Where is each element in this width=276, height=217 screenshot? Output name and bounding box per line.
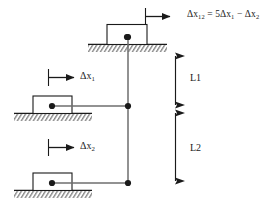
bottom-block-displacement-label: Δx2 [80,140,95,152]
dimension-L1-label: L1 [190,72,201,83]
diagram-root: Δx12 = 5Δx1 − Δx2 Δx1 Δx2 L1 L2 [0,0,276,217]
middle-ground [14,114,92,122]
equation-label: Δx12 = 5Δx1 − Δx2 [187,9,259,20]
middle-block-displacement-arrow [49,69,75,86]
top-block-displacement-arrow [146,8,171,25]
equation-term1-subscript: 1 [231,13,234,20]
top-block-pin [124,34,130,40]
bottom-block-displacement-arrow [49,139,75,156]
diagram-canvas [0,0,276,217]
equation-operator: − [237,9,242,19]
middle-block-displacement-subscript: 1 [91,75,94,82]
middle-block-displacement-symbol: Δx [80,70,91,81]
middle-block-pin [49,103,55,109]
middle-pin-node [125,103,131,109]
bottom-block-pin [49,180,55,186]
equation-lhs-subscript: 12 [198,13,205,20]
equation-lhs-symbol: Δx [187,9,198,19]
bottom-pin-node [125,180,131,186]
middle-block-displacement-label: Δx1 [80,70,95,82]
bottom-block-displacement-subscript: 2 [91,145,94,152]
equation-term2-subscript: 2 [256,13,259,20]
equation-term1-symbol: Δx [220,9,231,19]
dimension-L2-label: L2 [190,142,201,153]
equation-term2-symbol: Δx [245,9,256,19]
bottom-ground [14,191,92,199]
equation-equals: = [207,9,212,19]
bottom-block-displacement-symbol: Δx [80,140,91,151]
